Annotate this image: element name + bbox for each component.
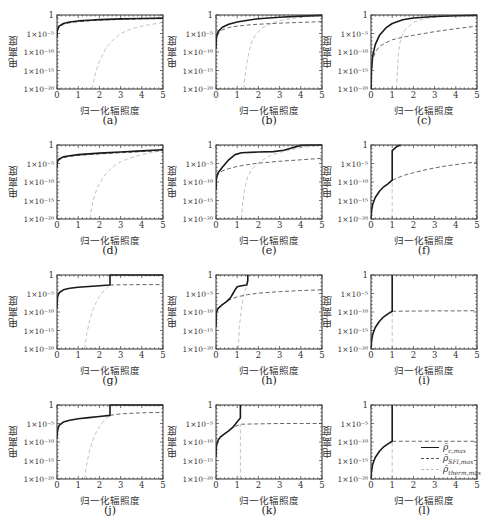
axis-ticks [371,145,477,219]
x-tick-label: 4 [298,90,303,100]
series-rho-c-max [371,405,392,479]
x-tick-label: 0 [368,480,373,490]
series-rho-SFI-max [216,22,322,49]
x-tick-label: 0 [368,350,373,360]
x-tick-label: 1 [234,480,239,490]
axis-ticks [57,275,163,349]
y-tick-label: 1×10⁻⁵ [185,30,213,39]
plot-frame [57,15,163,89]
x-tick-label: 0 [54,350,59,360]
series-rho-c-max [371,145,401,219]
y-tick-label: 1 [49,140,54,150]
axis-ticks [371,15,477,89]
y-tick-label: 1×10⁻²⁰ [23,85,54,94]
x-tick-label: 2 [411,220,416,230]
series-rho-SFI-max [392,162,477,180]
subfigure-caption: (j) [90,504,130,517]
x-tick-label: 5 [474,90,479,100]
y-axis-label: 电离度 [320,295,335,328]
y-tick-label: 1 [49,400,54,410]
y-tick-label: 1×10⁻¹⁰ [337,438,368,447]
y-tick-label: 1×10⁻¹⁵ [337,327,368,336]
x-tick-label: 0 [54,220,59,230]
legend-item: ρ̄c,max [421,442,481,453]
y-tick-label: 1×10⁻¹⁵ [182,67,213,76]
x-tick-label: 0 [368,90,373,100]
y-tick-label: 1 [49,10,54,20]
plot-frame [57,275,163,349]
chart-panel-a: 01234511×10⁻⁵1×10⁻¹⁰1×10⁻¹⁵1×10⁻²⁰电离度归一化… [0,0,160,130]
x-tick-label: 2 [256,220,261,230]
series-rho-c-max [216,405,240,457]
y-tick-label: 1×10⁻²⁰ [182,215,213,224]
legend-label: ρ̄therm,max [443,464,481,476]
x-tick-label: 4 [298,480,303,490]
x-tick-label: 2 [411,480,416,490]
subfigure-caption: (c) [404,114,444,127]
legend-item: ρ̄therm,max [421,464,481,475]
axis-ticks [371,275,477,349]
x-tick-label: 1 [389,350,394,360]
y-axis-label: 电离度 [320,165,335,198]
axis-ticks [216,405,322,479]
y-axis-label: 电离度 [165,165,180,198]
x-tick-label: 3 [277,350,282,360]
y-tick-label: 1×10⁻⁵ [185,420,213,429]
y-tick-label: 1×10⁻⁵ [340,420,368,429]
y-axis-label: 电离度 [165,295,180,328]
y-tick-label: 1×10⁻¹⁵ [337,457,368,466]
x-tick-label: 3 [432,220,437,230]
subfigure-caption: (h) [249,374,289,387]
x-tick-label: 0 [213,480,218,490]
x-tick-label: 2 [97,220,102,230]
x-tick-label: 1 [234,350,239,360]
x-tick-label: 3 [118,90,123,100]
y-tick-label: 1×10⁻¹⁰ [337,308,368,317]
y-tick-label: 1×10⁻²⁰ [182,475,213,484]
y-tick-label: 1×10⁻²⁰ [182,85,213,94]
y-tick-label: 1×10⁻¹⁰ [337,178,368,187]
axis-ticks [216,275,322,349]
y-tick-label: 1×10⁻²⁰ [337,85,368,94]
series-rho-c-max [371,275,392,349]
x-tick-label: 4 [453,480,458,490]
series-rho-SFI-max [216,158,322,189]
chart-panel-d: 01234511×10⁻⁵1×10⁻¹⁰1×10⁻¹⁵1×10⁻²⁰电离度归一化… [0,130,160,260]
chart-panel-g: 01234511×10⁻⁵1×10⁻¹⁰1×10⁻¹⁵1×10⁻²⁰电离度归一化… [0,260,160,390]
x-tick-label: 1 [389,480,394,490]
x-tick-label: 4 [139,220,144,230]
axis-ticks [57,15,163,89]
series-rho-c-max [57,405,163,438]
plot-frame [371,15,477,89]
series-rho-c-max [57,275,163,308]
x-tick-label: 2 [97,480,102,490]
chart-panel-i: 01234511×10⁻⁵1×10⁻¹⁰1×10⁻¹⁵1×10⁻²⁰电离度归一化… [314,260,474,390]
y-tick-label: 1×10⁻²⁰ [337,215,368,224]
y-axis-label: 电离度 [6,35,21,68]
series-rho-c-max [371,15,477,89]
y-tick-label: 1 [208,140,213,150]
y-tick-label: 1×10⁻¹⁰ [182,178,213,187]
y-tick-label: 1 [208,270,213,280]
y-tick-label: 1×10⁻⁵ [185,290,213,299]
y-axis-label: 电离度 [165,425,180,458]
x-tick-label: 2 [411,350,416,360]
legend-swatch [421,447,439,448]
y-tick-label: 1×10⁻²⁰ [23,215,54,224]
x-tick-label: 0 [213,350,218,360]
y-tick-label: 1×10⁻¹⁵ [182,327,213,336]
x-tick-label: 0 [213,90,218,100]
chart-panel-c: 01234511×10⁻⁵1×10⁻¹⁰1×10⁻¹⁵1×10⁻²⁰电离度归一化… [314,0,474,130]
y-tick-label: 1×10⁻²⁰ [23,345,54,354]
y-tick-label: 1 [363,270,368,280]
chart-panel-l: 01234511×10⁻⁵1×10⁻¹⁰1×10⁻¹⁵1×10⁻²⁰电离度归一化… [314,390,474,520]
x-tick-label: 2 [411,90,416,100]
y-tick-label: 1 [363,10,368,20]
chart-legend: ρ̄c,maxρ̄SFI,maxρ̄therm,max [421,442,481,475]
y-tick-label: 1×10⁻¹⁵ [337,67,368,76]
chart-panel-b: 01234511×10⁻⁵1×10⁻¹⁰1×10⁻¹⁵1×10⁻²⁰电离度归一化… [159,0,319,130]
legend-subscript: therm,max [448,468,481,475]
y-axis-label: 电离度 [320,35,335,68]
y-tick-label: 1×10⁻¹⁰ [23,178,54,187]
legend-swatch [421,469,439,470]
